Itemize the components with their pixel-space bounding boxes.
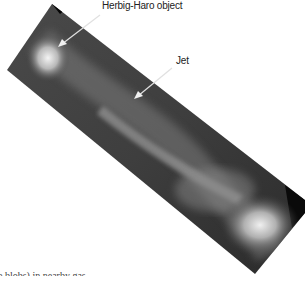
jet-label: Jet <box>176 55 189 66</box>
herbig-haro-photograph <box>0 0 305 282</box>
herbig-haro-label: Herbig-Haro object <box>102 0 182 11</box>
